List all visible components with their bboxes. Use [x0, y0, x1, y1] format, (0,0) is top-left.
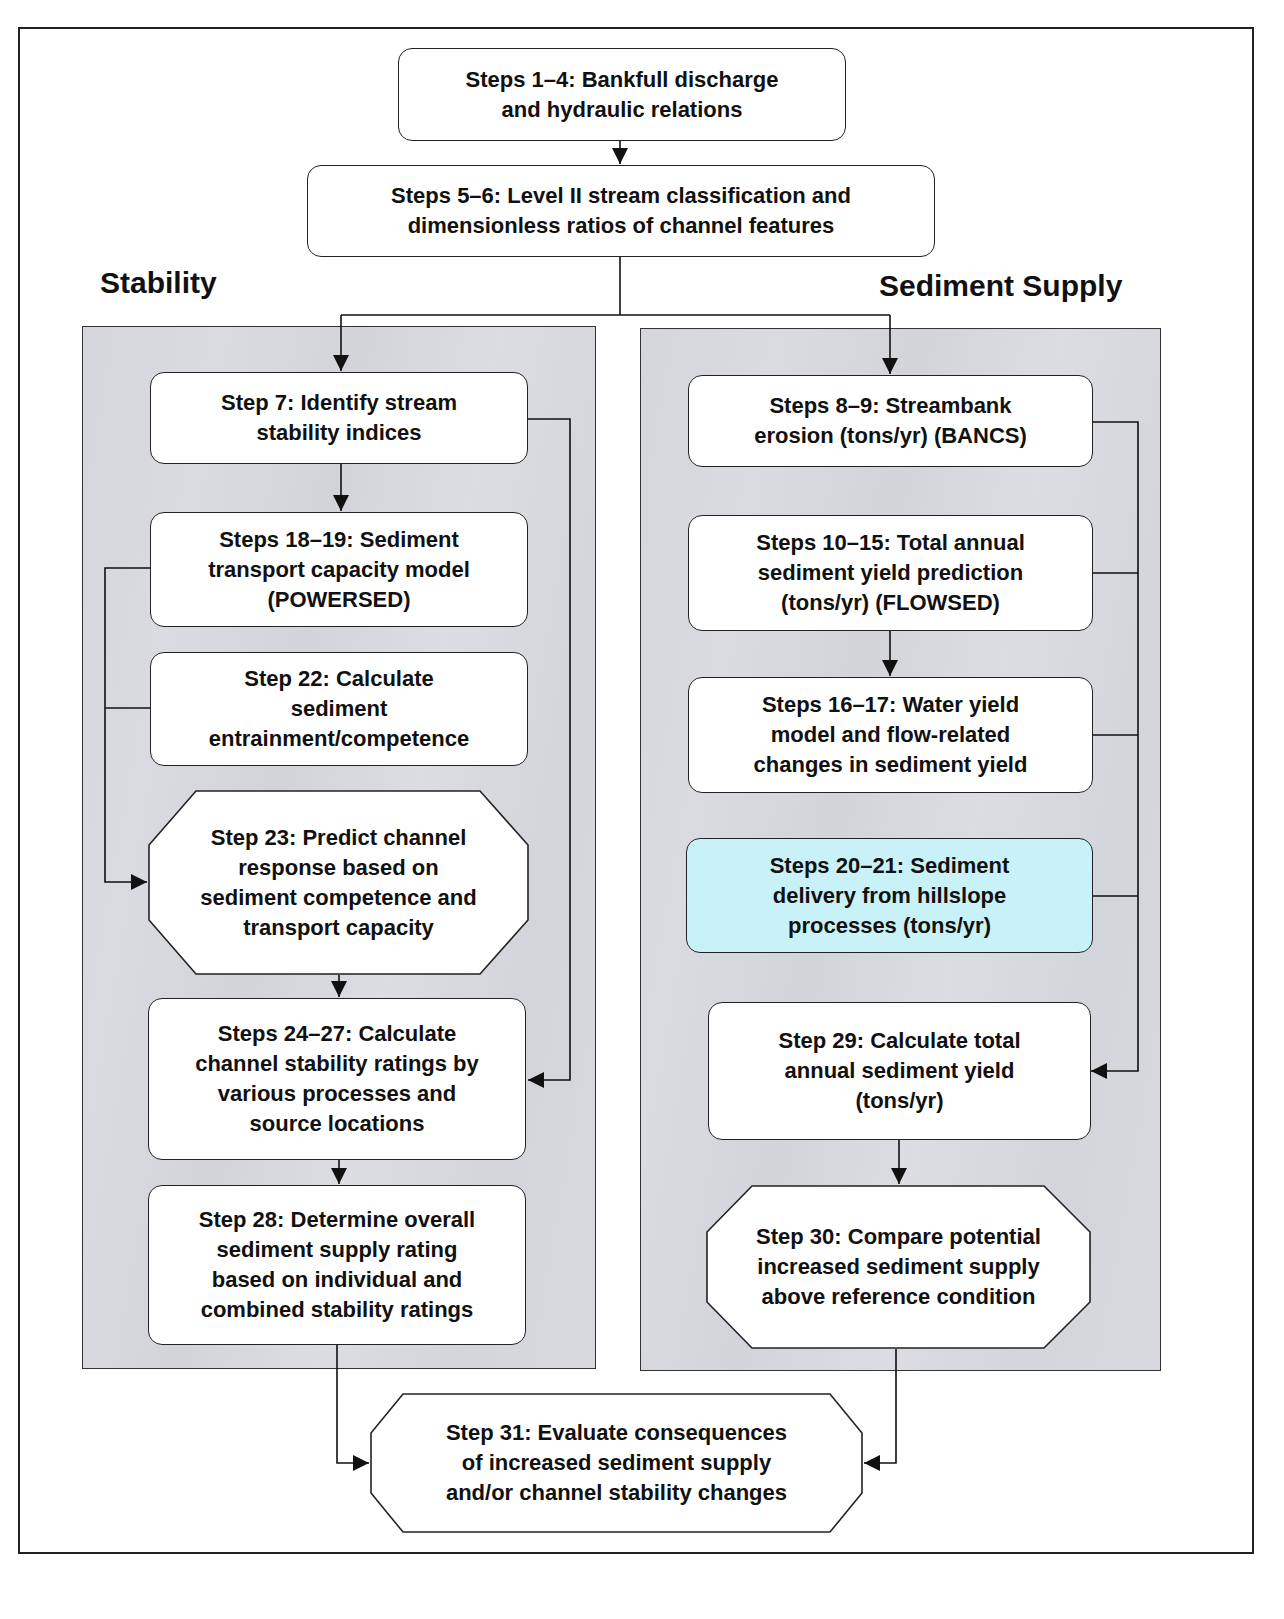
step-box-8-9: Steps 8–9: Streambank erosion (tons/yr) … [688, 375, 1093, 467]
step-octagon-31: Step 31: Evaluate consequences of increa… [370, 1393, 863, 1533]
step-label: Steps 1–4: Bankfull discharge and hydrau… [466, 65, 779, 125]
step-octagon-23: Step 23: Predict channel response based … [148, 790, 529, 975]
step-label: Step 28: Determine overall sediment supp… [199, 1205, 475, 1325]
section-title-sediment-supply: Sediment Supply [879, 269, 1122, 303]
step-box-28: Step 28: Determine overall sediment supp… [148, 1185, 526, 1345]
step-octagon-30: Step 30: Compare potential increased sed… [706, 1185, 1091, 1349]
step-box-5-6: Steps 5–6: Level II stream classificatio… [307, 165, 935, 257]
step-box-24-27: Steps 24–27: Calculate channel stability… [148, 998, 526, 1160]
step-label: Step 31: Evaluate consequences of increa… [446, 1418, 787, 1508]
step-box-10-15: Steps 10–15: Total annual sediment yield… [688, 515, 1093, 631]
step-label: Step 22: Calculate sediment entrainment/… [209, 664, 469, 754]
step-box-22: Step 22: Calculate sediment entrainment/… [150, 652, 528, 766]
step-label: Steps 24–27: Calculate channel stability… [195, 1019, 479, 1139]
step-label: Step 23: Predict channel response based … [200, 823, 476, 943]
step-label: Steps 18–19: Sediment transport capacity… [208, 525, 470, 615]
step-label: Steps 20–21: Sediment delivery from hill… [770, 851, 1010, 941]
step-label: Steps 16–17: Water yield model and flow-… [754, 690, 1028, 780]
step-box-18-19: Steps 18–19: Sediment transport capacity… [150, 512, 528, 627]
step-box-20-21: Steps 20–21: Sediment delivery from hill… [686, 838, 1093, 953]
step-box-1-4: Steps 1–4: Bankfull discharge and hydrau… [398, 48, 846, 141]
section-title-stability: Stability [100, 266, 217, 300]
step-label: Steps 5–6: Level II stream classificatio… [391, 181, 851, 241]
step-label: Step 7: Identify stream stability indice… [221, 388, 457, 448]
step-box-16-17: Steps 16–17: Water yield model and flow-… [688, 677, 1093, 793]
step-label: Steps 8–9: Streambank erosion (tons/yr) … [754, 391, 1027, 451]
step-label: Step 30: Compare potential increased sed… [756, 1222, 1041, 1312]
step-box-7: Step 7: Identify stream stability indice… [150, 372, 528, 464]
step-label: Step 29: Calculate total annual sediment… [778, 1026, 1020, 1116]
step-box-29: Step 29: Calculate total annual sediment… [708, 1002, 1091, 1140]
step-label: Steps 10–15: Total annual sediment yield… [756, 528, 1025, 618]
